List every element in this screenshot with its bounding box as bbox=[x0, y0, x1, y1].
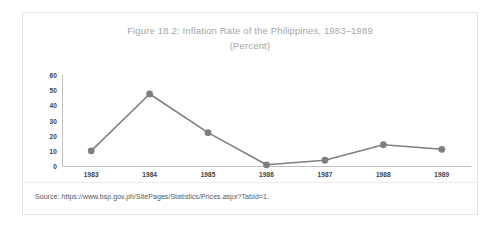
x-axis-tick-1987: 1987 bbox=[317, 171, 332, 178]
x-axis-tick-1984: 1984 bbox=[142, 171, 157, 178]
source-note: Source: https://www.bsp.gov.ph/SitePages… bbox=[35, 193, 269, 200]
data-point-1984 bbox=[146, 91, 153, 98]
source-divider bbox=[24, 182, 478, 183]
data-point-1986 bbox=[263, 161, 270, 168]
figure-title-line-2: (Percent) bbox=[23, 38, 477, 53]
data-point-1989 bbox=[438, 146, 445, 153]
x-axis-tick-1985: 1985 bbox=[201, 171, 216, 178]
x-axis-tick-1983: 1983 bbox=[84, 171, 99, 178]
figure-title: Figure 18.2: Inflation Rate of the Phili… bbox=[23, 23, 477, 53]
figure-container: Figure 18.2: Inflation Rate of the Phili… bbox=[22, 12, 478, 215]
inflation-rate-line bbox=[91, 94, 442, 165]
x-axis-tick-1989: 1989 bbox=[434, 171, 449, 178]
data-point-1988 bbox=[380, 141, 387, 148]
figure-title-line-1: Figure 18.2: Inflation Rate of the Phili… bbox=[23, 23, 477, 38]
x-axis-tick-1988: 1988 bbox=[376, 171, 391, 178]
data-point-1983 bbox=[88, 147, 95, 154]
line-series-svg bbox=[23, 53, 479, 178]
x-axis-tick-1986: 1986 bbox=[259, 171, 274, 178]
chart-plot-area: 0102030405060 19831984198519861987198819… bbox=[23, 53, 479, 178]
data-point-1985 bbox=[205, 129, 212, 136]
data-point-1987 bbox=[322, 157, 329, 164]
